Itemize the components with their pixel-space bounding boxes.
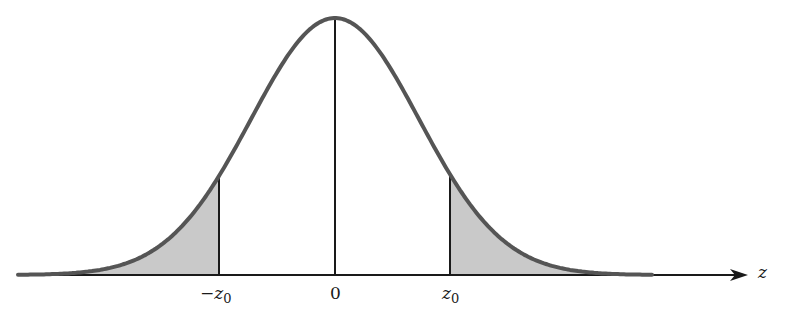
normal-curve-figure: −z0 0 z0 z [0,0,786,315]
tick-label-pos-z0: z0 [442,283,459,303]
tick-zero-text: 0 [330,283,341,303]
right-tail-shaded-region [450,174,652,275]
tick-var: z [214,283,223,303]
tick-subscript: 0 [223,291,231,306]
left-tail-shaded-region [18,176,219,275]
tick-subscript: 0 [451,291,459,306]
tick-label-zero: 0 [330,283,341,303]
tick-label-neg-z0: −z0 [200,283,232,303]
tick-var: z [442,283,451,303]
minus-sign: − [200,283,214,303]
axis-label-z: z [758,262,767,282]
normal-curve-plot [0,0,786,315]
